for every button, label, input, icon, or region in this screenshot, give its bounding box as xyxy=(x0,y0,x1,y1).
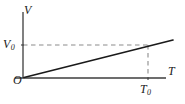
y-tick-label-v0: V0 xyxy=(3,38,15,50)
y-axis-label: V xyxy=(24,4,31,16)
data-line xyxy=(24,40,173,78)
x-tick-label-t0-base: T xyxy=(140,82,147,96)
x-tick-label-t0: T0 xyxy=(140,83,151,95)
origin-label: O xyxy=(13,74,22,86)
vt-graph-figure: V T V0 T0 O xyxy=(0,0,185,104)
y-tick-label-v0-subscript: 0 xyxy=(11,43,15,52)
x-tick-label-t0-subscript: 0 xyxy=(147,88,151,97)
y-tick-label-v0-base: V xyxy=(3,37,10,51)
x-axis-label: T xyxy=(168,65,175,77)
